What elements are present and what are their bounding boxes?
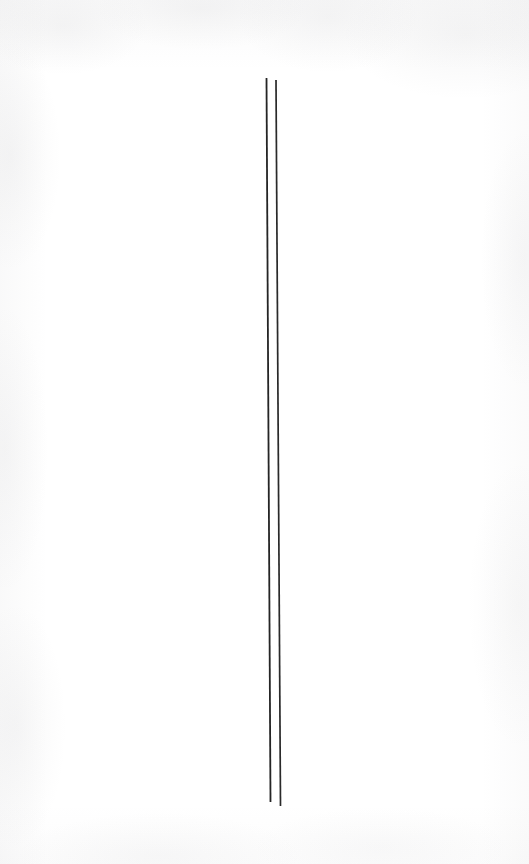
left-vertical-line [267,78,271,802]
vertical-lines-svg [0,0,529,864]
artwork-canvas [0,0,529,864]
right-vertical-line [276,80,281,806]
line-figure-layer [0,0,529,864]
